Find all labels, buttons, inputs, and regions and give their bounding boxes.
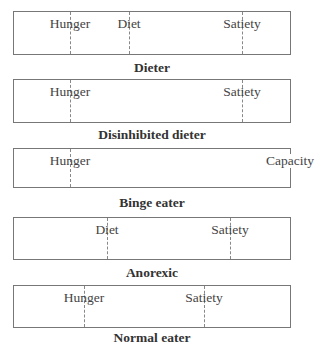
boundary-box: Hunger Diet Satiety [13, 11, 291, 55]
panel-caption: Binge eater [13, 195, 291, 211]
diet-label: Diet [117, 17, 140, 31]
capacity-label: Capacity [265, 154, 315, 168]
satiety-label: Satiety [185, 291, 223, 305]
panel-caption: Disinhibited dieter [13, 127, 291, 143]
hunger-label: Hunger [50, 154, 91, 168]
satiety-label: Satiety [223, 17, 261, 31]
boundary-box: Hunger Capacity [13, 148, 291, 188]
satiety-label: Satiety [211, 223, 249, 237]
diet-label: Diet [95, 223, 118, 237]
hunger-label: Hunger [64, 291, 105, 305]
boundary-box: Diet Satiety [13, 217, 291, 260]
hunger-label: Hunger [50, 17, 91, 31]
panel-caption: Dieter [13, 60, 291, 76]
hunger-label: Hunger [50, 85, 91, 99]
boundary-box: Hunger Satiety [13, 285, 291, 328]
satiety-label: Satiety [223, 85, 261, 99]
boundary-box: Hunger Satiety [13, 79, 291, 123]
panel-caption: Normal eater [13, 330, 291, 346]
panel-caption: Anorexic [13, 265, 291, 281]
